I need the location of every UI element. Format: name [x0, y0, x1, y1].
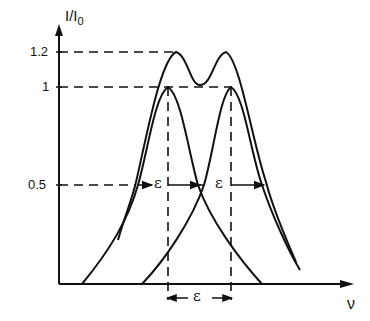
epsilon-left: ε [154, 176, 162, 191]
y-axis-arrow-icon [55, 24, 63, 36]
epsilon-bottom: ε [193, 289, 201, 304]
diagram-graphics [0, 0, 370, 321]
tick-label-1: 1 [42, 80, 49, 93]
tick-label-0.5: 0.5 [28, 178, 46, 191]
tick-label-1.2: 1.2 [30, 45, 48, 58]
epsilon-right: ε [215, 176, 223, 191]
y-axis-title-subscript: 0 [78, 15, 84, 27]
y-axis-title: I/I0 [65, 8, 84, 27]
x-axis-title: ν [347, 296, 355, 312]
x-axis-arrow-icon [340, 280, 354, 288]
y-axis-title-text: I/I [65, 7, 78, 24]
diagram: I/I0 1.2 1 0.5 ε ε ε ν [0, 0, 370, 321]
